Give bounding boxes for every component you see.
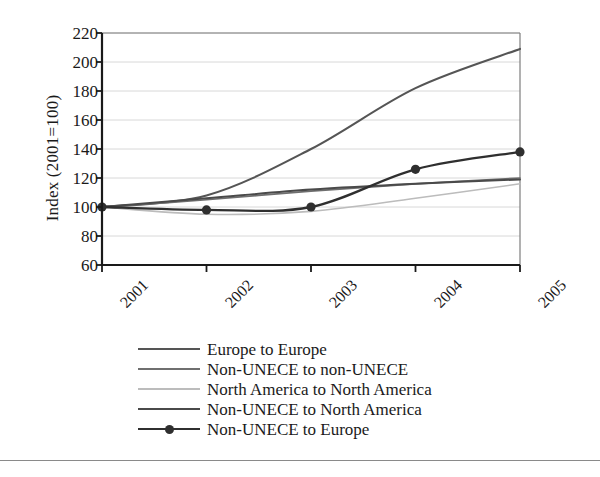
legend-swatch	[138, 400, 200, 418]
legend-label: North America to North America	[207, 381, 432, 398]
legend-label: Europe to Europe	[207, 341, 327, 358]
chart-figure: Index (2001=100) 22020018016014012010080…	[0, 0, 600, 477]
legend-label: Non-UNECE to North America	[207, 401, 422, 418]
data-point-marker	[306, 202, 315, 211]
legend-line-icon	[138, 368, 200, 370]
chart-legend: Europe to EuropeNon-UNECE to non-UNECENo…	[138, 339, 468, 439]
data-point-marker	[411, 165, 420, 174]
legend-line-icon	[138, 408, 200, 410]
legend-item[interactable]: Non-UNECE to Europe	[138, 419, 468, 439]
y-tick-label: 220	[56, 25, 98, 42]
data-point-marker	[515, 147, 524, 156]
data-point-marker	[202, 205, 211, 214]
y-tick-label: 120	[56, 170, 98, 187]
y-tick-label: 200	[56, 54, 98, 71]
y-tick-label: 140	[56, 141, 98, 158]
legend-label: Non-UNECE to non-UNECE	[207, 361, 408, 378]
series-line	[102, 49, 520, 207]
legend-item[interactable]: Non-UNECE to North America	[138, 399, 468, 419]
y-tick-label: 180	[56, 83, 98, 100]
legend-marker-icon	[165, 425, 174, 434]
y-tick-label: 100	[56, 199, 98, 216]
y-tick-label: 60	[56, 257, 98, 274]
y-axis-tick-labels: 2202001801601401201008060	[50, 0, 98, 477]
y-tick-label: 80	[56, 228, 98, 245]
legend-line-icon	[138, 348, 200, 350]
legend-item[interactable]: North America to North America	[138, 379, 468, 399]
legend-line-icon	[138, 388, 200, 390]
legend-swatch	[138, 380, 200, 398]
legend-swatch	[138, 340, 200, 358]
legend-swatch	[138, 360, 200, 378]
legend-swatch	[138, 420, 200, 438]
y-tick-label: 160	[56, 112, 98, 129]
legend-label: Non-UNECE to Europe	[207, 421, 369, 438]
legend-item[interactable]: Non-UNECE to non-UNECE	[138, 359, 468, 379]
legend-item[interactable]: Europe to Europe	[138, 339, 468, 359]
footer-divider	[0, 460, 600, 461]
